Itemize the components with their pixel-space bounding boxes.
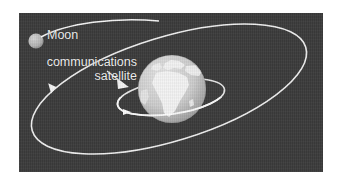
satellite-label: communications satellite	[41, 56, 137, 83]
moon-label: Moon	[47, 29, 78, 43]
earth-body	[138, 55, 209, 123]
satellite-label-line-1: communications	[41, 56, 137, 70]
figure-root: Moon communications satellite	[0, 0, 338, 183]
diagram-panel: Moon communications satellite	[19, 13, 323, 172]
moon-body	[28, 33, 43, 48]
satellite-label-line-2: satellite	[41, 70, 137, 84]
